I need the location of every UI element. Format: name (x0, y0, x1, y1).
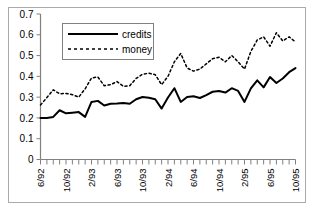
legend-label-money: money (122, 44, 152, 55)
y-tick-label: 0.6 (20, 29, 34, 40)
x-tick-label: 10/95 (290, 169, 301, 193)
x-tick-label: 10/94 (214, 169, 225, 193)
y-tick-label: 0.3 (20, 92, 34, 103)
y-tick-label: 0.7 (20, 9, 34, 20)
x-tick-label: 6/93 (112, 169, 123, 188)
chart-container: 00.10.20.30.40.50.60.7 6/9210/922/936/93… (0, 0, 314, 210)
x-tick-label: 2/93 (86, 169, 97, 188)
x-axis-ticks (41, 160, 296, 165)
x-tick-label: 6/94 (188, 169, 199, 188)
chart-legend: credits money (63, 24, 154, 60)
legend-label-credits: credits (122, 29, 151, 40)
y-tick-label: 0 (28, 154, 34, 165)
x-tick-label: 2/95 (239, 169, 250, 188)
line-chart: 00.10.20.30.40.50.60.7 6/9210/922/936/93… (0, 0, 314, 210)
x-tick-label: 10/93 (137, 169, 148, 193)
y-tick-label: 0.2 (20, 113, 34, 124)
x-tick-label: 6/95 (265, 169, 276, 188)
y-tick-label: 0.1 (20, 133, 34, 144)
x-tick-label: 2/94 (163, 169, 174, 188)
x-tick-label: 10/92 (61, 169, 72, 193)
y-tick-label: 0.4 (20, 71, 34, 82)
x-tick-label: 6/92 (35, 169, 46, 188)
y-tick-label: 0.5 (20, 50, 34, 61)
